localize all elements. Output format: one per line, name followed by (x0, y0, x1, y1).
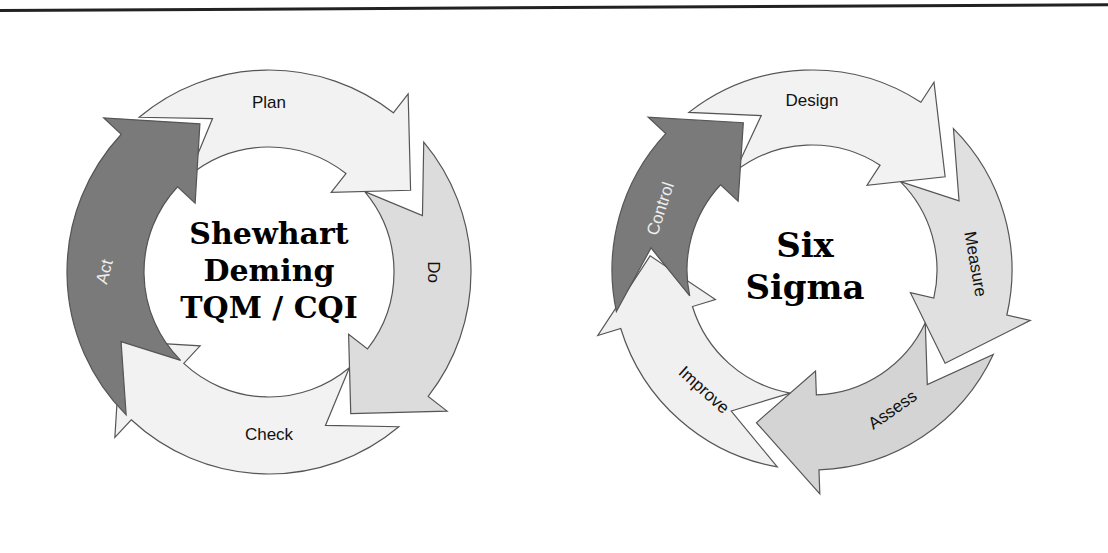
segment-label-check: Check (245, 425, 294, 444)
pdca-cycle: PlanDoCheckActShewhartDemingTQM / CQI (67, 70, 471, 474)
center-title-line: Sigma (745, 267, 864, 307)
center-title-line: Six (776, 225, 834, 265)
segment-label-do: Do (424, 261, 443, 283)
cycle-diagrams: PlanDoCheckActShewhartDemingTQM / CQIDes… (0, 0, 1108, 553)
segment-label-plan: Plan (252, 93, 286, 112)
six-sigma-cycle: DesignMeasureAssessImproveControlSixSigm… (598, 70, 1030, 494)
segment-label-design: Design (786, 91, 839, 110)
center-title-line: Deming (203, 253, 334, 288)
center-title-line: TQM / CQI (180, 290, 358, 325)
center-title-line: Shewhart (189, 216, 348, 251)
